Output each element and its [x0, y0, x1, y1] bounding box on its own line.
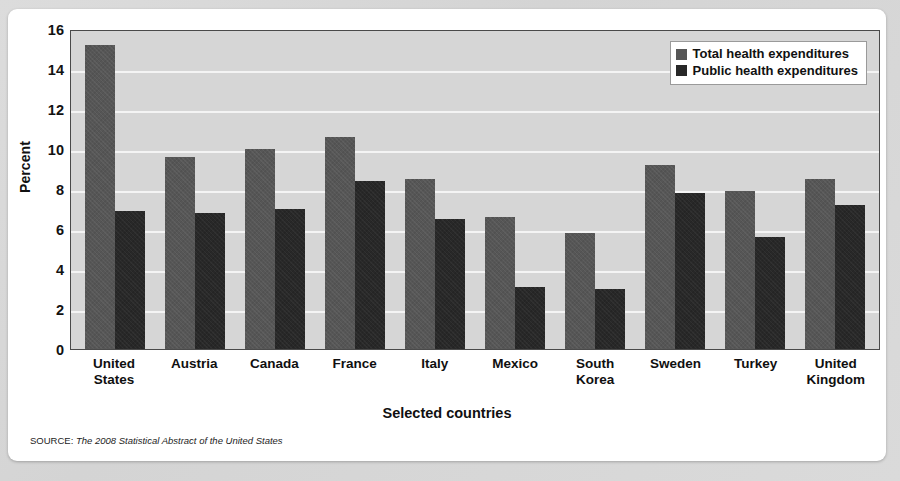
x-tick-label-line: Italy — [404, 356, 466, 372]
legend-swatch-total-icon — [676, 49, 687, 60]
x-tick-label-line: Austria — [163, 356, 225, 372]
y-tick-label: 12 — [36, 103, 64, 118]
bar-public[interactable] — [675, 193, 705, 349]
bar-total[interactable] — [725, 191, 755, 349]
bar-group — [165, 31, 225, 349]
bar-total[interactable] — [405, 179, 435, 349]
bar-public[interactable] — [755, 237, 785, 349]
legend-item: Public health expenditures — [676, 63, 858, 80]
x-tick-label-line: Korea — [564, 372, 626, 388]
y-tick-label: 0 — [36, 343, 64, 358]
bar-public[interactable] — [195, 213, 225, 349]
x-tick-label: France — [324, 356, 386, 388]
source-note: SOURCE: The 2008 Statistical Abstract of… — [30, 435, 283, 446]
source-title: The 2008 Statistical Abstract of the Uni… — [76, 435, 283, 446]
bar-group — [245, 31, 305, 349]
y-tick-label: 8 — [36, 183, 64, 198]
legend-item: Total health expenditures — [676, 46, 858, 63]
x-tick-label-line: Canada — [243, 356, 305, 372]
x-tick-label-line: States — [83, 372, 145, 388]
y-tick-label: 14 — [36, 63, 64, 78]
bar-total[interactable] — [485, 217, 515, 349]
source-prefix: SOURCE: — [30, 435, 73, 446]
x-tick-label: SouthKorea — [564, 356, 626, 388]
x-axis-tick-labels: UnitedStatesAustriaCanadaFranceItalyMexi… — [70, 356, 880, 388]
x-tick-label-line: United — [805, 356, 867, 372]
x-tick-label: UnitedStates — [83, 356, 145, 388]
legend-label: Public health expenditures — [693, 63, 858, 80]
bar-group — [565, 31, 625, 349]
x-tick-label: Canada — [243, 356, 305, 388]
bar-public[interactable] — [835, 205, 865, 349]
x-tick-label: Austria — [163, 356, 225, 388]
x-tick-label-line: United — [83, 356, 145, 372]
bar-public[interactable] — [275, 209, 305, 349]
chart-card: Percent 1614121086420 Total health expen… — [8, 9, 886, 461]
bar-group — [325, 31, 385, 349]
bar-chart-figure: Percent 1614121086420 Total health expen… — [8, 9, 886, 461]
x-tick-label-line: Mexico — [484, 356, 546, 372]
x-tick-label: Sweden — [644, 356, 706, 388]
bar-public[interactable] — [435, 219, 465, 349]
bar-public[interactable] — [115, 211, 145, 349]
page-background: Percent 1614121086420 Total health expen… — [0, 0, 900, 481]
bar-group — [485, 31, 545, 349]
y-tick-label: 2 — [36, 303, 64, 318]
y-axis-tick-labels: 1614121086420 — [28, 30, 64, 350]
y-tick-label: 4 — [36, 263, 64, 278]
bar-public[interactable] — [595, 289, 625, 349]
legend-label: Total health expenditures — [693, 46, 850, 63]
x-tick-label-line: South — [564, 356, 626, 372]
y-tick-label: 6 — [36, 223, 64, 238]
chart-legend: Total health expendituresPublic health e… — [670, 41, 867, 85]
x-tick-label-line: Sweden — [644, 356, 706, 372]
bar-total[interactable] — [85, 45, 115, 349]
x-tick-label: Mexico — [484, 356, 546, 388]
bar-total[interactable] — [645, 165, 675, 349]
plot-area: Total health expendituresPublic health e… — [70, 30, 880, 350]
bar-total[interactable] — [165, 157, 195, 349]
x-tick-label-line: France — [324, 356, 386, 372]
bar-public[interactable] — [515, 287, 545, 349]
bar-group — [85, 31, 145, 349]
legend-swatch-public-icon — [676, 65, 687, 76]
bar-total[interactable] — [565, 233, 595, 349]
bar-total[interactable] — [805, 179, 835, 349]
y-tick-label: 16 — [36, 23, 64, 38]
bar-total[interactable] — [325, 137, 355, 349]
x-tick-label: Turkey — [725, 356, 787, 388]
bar-group — [405, 31, 465, 349]
x-tick-label-line: Turkey — [725, 356, 787, 372]
x-axis-title: Selected countries — [8, 405, 886, 421]
x-tick-label-line: Kingdom — [805, 372, 867, 388]
x-tick-label: UnitedKingdom — [805, 356, 867, 388]
bar-public[interactable] — [355, 181, 385, 349]
x-tick-label: Italy — [404, 356, 466, 388]
bar-total[interactable] — [245, 149, 275, 349]
y-tick-label: 10 — [36, 143, 64, 158]
